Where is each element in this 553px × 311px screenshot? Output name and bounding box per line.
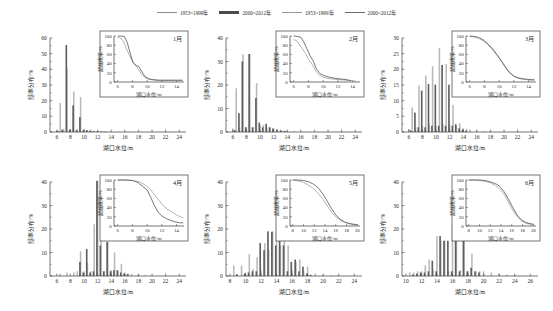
x-tick-label: 20 [325, 134, 331, 140]
inset-y-tick-label: 80 [283, 187, 288, 192]
histogram-bar [252, 271, 254, 276]
legend-item-2: 2000~2012年 [219, 9, 271, 16]
inset-x-tick-label: 10 [145, 228, 150, 233]
x-tick-label: 20 [320, 278, 326, 284]
x-tick-label: 16 [122, 278, 128, 284]
x-tick-label: 18 [136, 278, 142, 284]
x-tick-label: 24 [351, 278, 357, 284]
histogram-bar [269, 127, 271, 132]
inset-y-tick-label: 20 [283, 71, 288, 76]
panel-2: 010203040681012141618202224湖口水位/m频率分布/%0… [190, 28, 366, 159]
inset-x-tick-label: 18 [344, 228, 349, 233]
y-tick-label: 10 [217, 106, 223, 112]
legend-swatch-line-icon [282, 12, 302, 13]
x-tick-label: 14 [284, 134, 290, 140]
inset-y-tick-label: 20 [459, 215, 464, 220]
inset-x-tick-label: 14 [323, 228, 328, 233]
inset-x-tick-label: 12 [488, 228, 493, 233]
x-tick-label: 8 [421, 134, 424, 140]
histogram-bar [474, 271, 476, 276]
histogram-bar [93, 224, 95, 276]
inset-y-tick-label: 60 [283, 196, 288, 201]
histogram-bar [469, 129, 471, 132]
x-tick-label: 14 [108, 278, 114, 284]
histogram-bar [441, 65, 443, 132]
histogram-bar [248, 54, 250, 132]
x-axis-title: 湖口水位/m [279, 144, 310, 152]
legend-label: 2000~2012年 [242, 9, 271, 16]
histogram-bar [117, 270, 119, 276]
y-tick-label: 0 [220, 273, 223, 279]
y-axis-title: 频率分布/% [379, 214, 387, 245]
histogram-bar [445, 126, 447, 132]
inset-y-tick-label: 80 [459, 43, 464, 48]
y-tick-label: 0 [220, 129, 223, 135]
panel-label: 5月 [349, 179, 358, 187]
histogram-bar [86, 249, 88, 276]
inset-y-tick-label: 60 [283, 52, 288, 57]
histogram-bar [242, 62, 244, 133]
inset-y-tick-label: 40 [283, 205, 288, 210]
y-axis-title: 频率分布/% [27, 214, 35, 245]
x-tick-label: 12 [95, 134, 101, 140]
panel-label: 2月 [349, 35, 358, 43]
x-axis-title: 湖口水位/m [455, 144, 486, 152]
inset-x-tick-label: 12 [159, 84, 164, 89]
inset-x-tick-label: 10 [321, 84, 326, 89]
y-tick-label: 0 [396, 129, 399, 135]
histogram-bar [447, 241, 449, 276]
histogram-bar [431, 126, 433, 132]
histogram-bar [265, 124, 267, 132]
figure-root: 1953~1999年2000~2012年1953~1999年2000~2012年… [0, 0, 553, 311]
inset-y-tick-label: 80 [283, 43, 288, 48]
y-tick-label: 0 [396, 273, 399, 279]
histogram-bar [459, 271, 461, 276]
inset-x-tick-label: 10 [301, 228, 306, 233]
histogram-bar [491, 272, 493, 276]
inset-y-axis-title: 超越概率/% [97, 190, 104, 216]
histogram-bar [315, 274, 317, 276]
x-tick-label: 10 [81, 278, 87, 284]
inset-y-axis-title: 超越概率/% [273, 46, 280, 72]
x-tick-label: 24 [352, 134, 358, 140]
inset-x-tick-label: 20 [531, 228, 536, 233]
histogram-bar [431, 261, 433, 276]
x-tick-label: 24 [528, 134, 534, 140]
inset-x-tick-label: 12 [159, 228, 164, 233]
inset-x-tick-label: 14 [499, 228, 504, 233]
y-tick-label: 20 [41, 226, 47, 232]
inset-y-axis-title: 超越概率/% [273, 190, 280, 216]
legend-label: 1953~1999年 [180, 9, 209, 16]
x-tick-label: 14 [434, 278, 440, 284]
x-tick-label: 24 [176, 278, 182, 284]
inset-y-tick-label: 100 [456, 178, 464, 183]
histogram-bar [455, 238, 457, 276]
y-tick-label: 60 [41, 35, 47, 41]
inset-y-tick-label: 100 [104, 34, 112, 39]
inset-x-tick-label: 12 [312, 228, 317, 233]
y-tick-label: 20 [41, 98, 47, 104]
inset-x-tick-label: 14 [350, 84, 355, 89]
y-tick-label: 20 [393, 66, 399, 72]
histogram-bar [255, 271, 257, 276]
inset-x-tick-label: 12 [511, 84, 516, 89]
inset-y-axis-title: 超越概率/% [449, 190, 456, 216]
x-tick-label: 22 [496, 278, 502, 284]
histogram-bar [262, 127, 264, 132]
inset-y-tick-label: 40 [459, 205, 464, 210]
x-tick-label: 16 [122, 134, 128, 140]
histogram-bar [298, 271, 300, 276]
y-tick-label: 30 [217, 203, 223, 209]
histogram-bar [438, 126, 440, 132]
inset-x-tick-label: 10 [477, 228, 482, 233]
histogram-bar [424, 127, 426, 132]
inset-x-tick-label: 18 [520, 228, 525, 233]
histogram-bar [439, 236, 441, 276]
inset-y-tick-label: 20 [107, 215, 112, 220]
histogram-bar [418, 127, 420, 132]
inset-y-tick-label: 100 [456, 34, 464, 39]
inset-x-axis-title: 湖口水位/m [312, 91, 337, 98]
histogram-bar [418, 86, 420, 132]
y-tick-label: 15 [393, 82, 399, 88]
x-tick-label: 12 [419, 278, 425, 284]
